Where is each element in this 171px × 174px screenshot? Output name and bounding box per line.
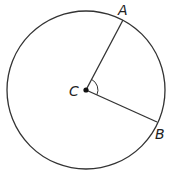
radius-cb (86, 90, 157, 122)
label-a: A (117, 2, 128, 18)
center-point (83, 87, 88, 92)
circle-diagram: C A B (0, 0, 171, 174)
label-b: B (155, 126, 165, 142)
label-c: C (69, 83, 79, 99)
